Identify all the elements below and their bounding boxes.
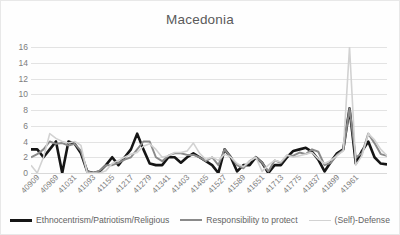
legend-item-self-defense: (Self)-Defense — [309, 215, 390, 225]
x-axis-tick-label: 41837 — [300, 173, 322, 195]
legend-label: (Self)-Defense — [335, 215, 390, 225]
y-axis-tick-label: 12 — [19, 74, 28, 84]
legend-item-responsibility: Responsibility to protect — [180, 215, 297, 225]
x-axis-tick-label: 41713 — [263, 173, 285, 195]
y-axis-tick-label: 6 — [23, 121, 28, 131]
y-axis-tick-label: 2 — [23, 152, 28, 162]
x-axis-tick-label: 41279 — [132, 173, 154, 195]
x-axis-tick-label: 41093 — [75, 173, 97, 195]
x-axis-tick-label: 41341 — [150, 173, 172, 195]
x-axis-tick-label: 41403 — [169, 173, 191, 195]
x-axis-tick-label: 41589 — [225, 173, 247, 195]
legend-swatch-icon — [10, 219, 32, 222]
chart-container: Macedonia 0246810121416 4090940969410314… — [0, 0, 400, 235]
chart-legend: Ethnocentrism/Patriotism/Religious Respo… — [1, 215, 399, 225]
x-axis-tick-label: 41961 — [338, 173, 360, 195]
y-axis-tick-label: 16 — [19, 42, 28, 52]
x-axis-tick-label: 41217 — [113, 173, 135, 195]
x-axis-tick-label: 41527 — [207, 173, 229, 195]
y-axis-tick-label: 14 — [19, 58, 28, 68]
chart-title: Macedonia — [1, 12, 399, 27]
legend-swatch-icon — [180, 219, 202, 221]
series-lines — [31, 47, 387, 173]
y-axis-tick-label: 0 — [23, 168, 28, 178]
y-axis-tick-label: 10 — [19, 89, 28, 99]
x-axis-tick-label: 40969 — [38, 173, 60, 195]
x-axis-tick-label: 41465 — [188, 173, 210, 195]
legend-label: Ethnocentrism/Patriotism/Religious — [36, 215, 169, 225]
x-axis-tick-label: 41651 — [244, 173, 266, 195]
x-axis-tick-label: 41899 — [319, 173, 341, 195]
x-axis-tick-label: 41031 — [57, 173, 79, 195]
y-axis: 0246810121416 — [1, 47, 28, 173]
y-axis-tick-label: 8 — [23, 105, 28, 115]
legend-swatch-icon — [309, 220, 331, 221]
x-axis: 4090940969410314109341155412174127941341… — [31, 173, 387, 211]
x-axis-tick-label: 41775 — [282, 173, 304, 195]
legend-item-ethnocentrism: Ethnocentrism/Patriotism/Religious — [10, 215, 169, 225]
x-axis-tick-label: 41155 — [95, 173, 117, 195]
legend-label: Responsibility to protect — [206, 215, 297, 225]
y-axis-tick-label: 4 — [23, 137, 28, 147]
series-line — [31, 47, 387, 173]
